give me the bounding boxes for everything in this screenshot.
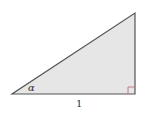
base-length-label: 1 [76, 99, 82, 109]
triangle-svg [0, 0, 145, 121]
angle-label-alpha: α [28, 83, 35, 93]
diagram-canvas: α 1 [0, 0, 145, 121]
